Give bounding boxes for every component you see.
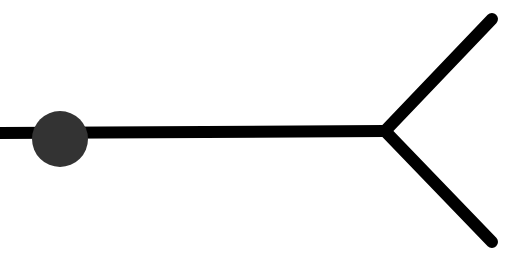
position-marker-dot (32, 111, 88, 167)
upper-branch-line (385, 19, 492, 131)
fork-diagram (0, 0, 526, 271)
lower-branch-line (385, 131, 492, 242)
